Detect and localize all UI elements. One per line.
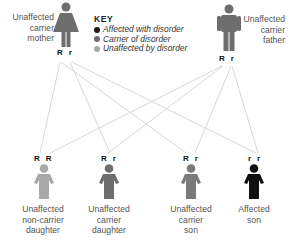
mother-label: Unaffected carrier mother (4, 12, 54, 44)
legend-item-unaffected: Unaffected by disorder (94, 44, 187, 54)
child-3-person-icon (180, 164, 202, 200)
legend-item-label: Unaffected by disorder (103, 44, 187, 54)
mother-female-icon (52, 2, 80, 48)
child-label-line: son (226, 215, 282, 226)
child-4-genotype: r r (248, 154, 261, 163)
child-label-line: carrier (79, 215, 139, 226)
child-label-line: son (161, 225, 221, 236)
child-2-genotype: R r (101, 154, 116, 163)
child-label-line: Unaffected (161, 204, 221, 215)
mother-genotype: R r (57, 48, 72, 57)
unaffected-dot-icon (94, 46, 100, 52)
child-1-person-icon (33, 164, 55, 200)
child-label-line: Affected (226, 204, 282, 215)
carrier-dot-icon (94, 36, 100, 42)
father-male-icon (215, 4, 243, 52)
child-label-line: Unaffected (79, 204, 139, 215)
legend: KEY Affected with disorder Carrier of di… (94, 15, 187, 54)
affected-dot-icon (94, 27, 100, 33)
child-label-line: daughter (13, 225, 73, 236)
father-genotype: R r (219, 54, 234, 63)
father-label: Unaffected carrier father (240, 14, 285, 46)
child-3-label: Unaffected carrier son (161, 204, 221, 236)
child-4-label: Affected son (226, 204, 282, 225)
child-3-genotype: R r (183, 154, 198, 163)
inheritance-diagram: Unaffected carrier mother R r KEY Affect… (0, 0, 290, 244)
father-label-line: Unaffected (240, 14, 285, 25)
child-label-line: daughter (79, 225, 139, 236)
child-2-person-icon (98, 164, 120, 200)
child-1-genotype: R R (34, 154, 52, 163)
child-label-line: Unaffected (13, 204, 73, 215)
mother-label-line: mother (4, 33, 54, 44)
child-2-label: Unaffected carrier daughter (79, 204, 139, 236)
child-label-line: non-carrier (13, 215, 73, 226)
mother-label-line: Unaffected (4, 12, 54, 23)
father-label-line: carrier (240, 25, 285, 36)
father-label-line: father (240, 35, 285, 46)
child-4-person-icon (243, 164, 265, 200)
child-1-label: Unaffected non-carrier daughter (13, 204, 73, 236)
mother-label-line: carrier (4, 23, 54, 34)
child-label-line: carrier (161, 215, 221, 226)
